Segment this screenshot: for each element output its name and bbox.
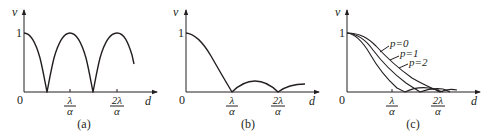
x-tick-label-den: α xyxy=(67,105,73,117)
y-tick-label: 1 xyxy=(178,26,184,40)
x-axis-label: d xyxy=(471,94,478,108)
leader-line xyxy=(380,46,389,52)
leader-line xyxy=(399,64,408,68)
x-axis-label: d xyxy=(145,94,152,108)
y-tick-label: 1 xyxy=(339,26,345,40)
x-tick-label-den: α xyxy=(229,105,235,117)
x-axis-label: d xyxy=(309,94,316,108)
panel-caption: (a) xyxy=(77,117,90,131)
y-axis-label: v xyxy=(335,5,341,19)
figure: v 1 0 d λ α 2λ α (a) v 1 0 d λ α 2λ α (b… xyxy=(0,0,494,137)
panel-caption: (b) xyxy=(241,117,255,131)
panel-b: v 1 0 d λ α 2λ α (b) xyxy=(173,5,319,131)
x-tick-label-den: α xyxy=(275,105,281,117)
curve-label-p2: p=2 xyxy=(408,56,428,68)
origin-label: 0 xyxy=(179,93,185,107)
panel-caption: (c) xyxy=(406,117,419,131)
leader-line xyxy=(390,56,399,60)
curve-a xyxy=(24,33,134,92)
x-tick-label-den: α xyxy=(435,105,441,117)
y-axis-label: v xyxy=(173,5,179,19)
curve-b xyxy=(186,33,305,92)
origin-label: 0 xyxy=(17,93,23,107)
origin-label: 0 xyxy=(339,93,345,107)
y-axis-label: v xyxy=(12,5,18,19)
panel-a: v 1 0 d λ α 2λ α (a) xyxy=(12,5,157,131)
panel-c: v 1 0 d p=0 p=1 p=2 λ α 2λ α (c) xyxy=(335,5,480,131)
y-tick-label: 1 xyxy=(16,26,22,40)
x-tick-label-den: α xyxy=(114,105,120,117)
x-tick-label-den: α xyxy=(389,105,395,117)
